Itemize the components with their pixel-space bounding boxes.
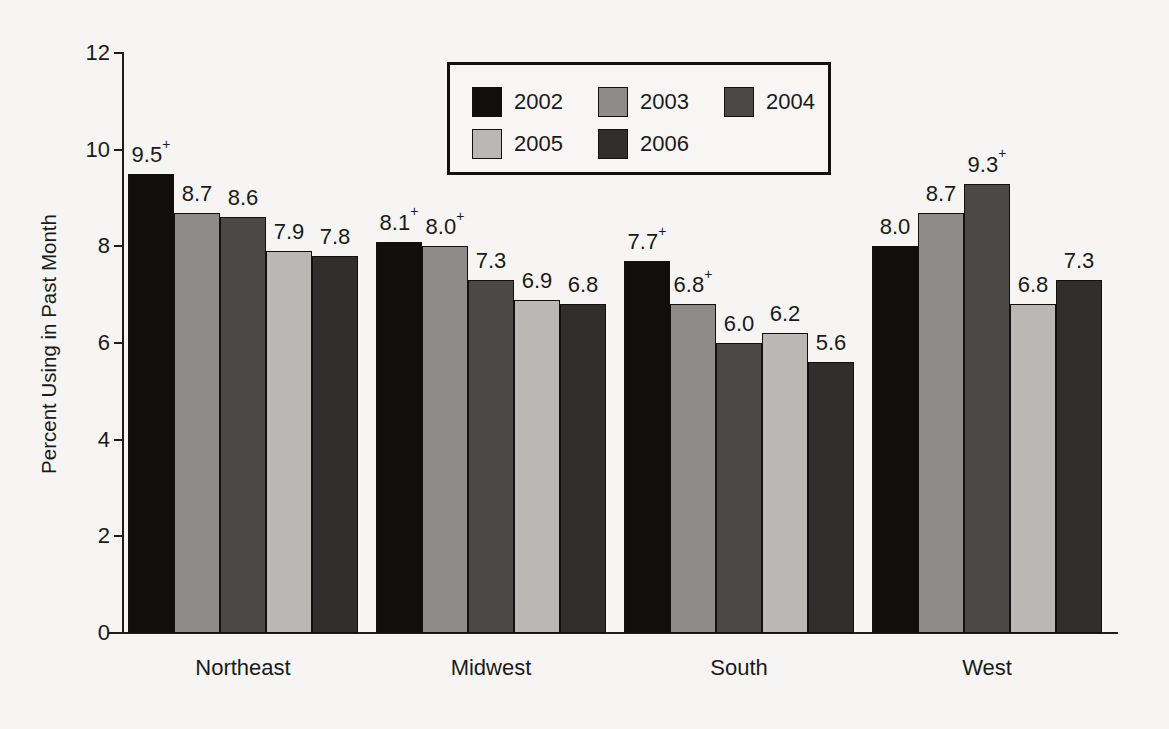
x-category-label-south: South	[624, 655, 854, 681]
bar	[872, 246, 918, 633]
bar	[1056, 280, 1102, 633]
legend-swatch-icon	[598, 129, 628, 159]
x-category-label-northeast: Northeast	[128, 655, 358, 681]
bar	[670, 304, 716, 633]
legend-item-2004: 2004	[724, 87, 815, 117]
legend-swatch-icon	[598, 87, 628, 117]
bar	[422, 246, 468, 633]
bar	[376, 242, 422, 634]
legend-swatch-icon	[472, 129, 502, 159]
legend-label: 2004	[766, 91, 815, 113]
legend-label: 2005	[514, 133, 563, 155]
bar-value-label: 9.5+	[116, 144, 186, 166]
bar	[964, 184, 1010, 634]
legend-label: 2006	[640, 133, 689, 155]
bar-value-label: 6.8	[548, 274, 618, 296]
bar-value-label: 7.7+	[612, 231, 682, 253]
legend: 20022003200420052006	[447, 62, 831, 175]
bar	[716, 343, 762, 633]
bar-value-label: 9.3+	[952, 154, 1022, 176]
bar-value-label: 5.6	[796, 332, 866, 354]
legend-swatch-icon	[724, 87, 754, 117]
bar-value-label: 7.3	[1044, 250, 1114, 272]
x-category-label-west: West	[872, 655, 1102, 681]
bar	[624, 261, 670, 633]
legend-label: 2002	[514, 91, 563, 113]
bar	[220, 217, 266, 633]
chart-page: Percent Using in Past Month 121086420 9.…	[0, 0, 1169, 729]
bar-value-label: 7.8	[300, 226, 370, 248]
bar	[468, 280, 514, 633]
bar	[312, 256, 358, 633]
bar	[128, 174, 174, 633]
legend-item-2005: 2005	[472, 129, 563, 159]
legend-label: 2003	[640, 91, 689, 113]
bar	[560, 304, 606, 633]
legend-swatch-icon	[472, 87, 502, 117]
bar-value-label: 6.2	[750, 303, 820, 325]
bar	[1010, 304, 1056, 633]
bar	[918, 213, 964, 634]
bar	[808, 362, 854, 633]
bar	[762, 333, 808, 633]
bar-value-label: 8.0+	[410, 216, 480, 238]
bar-value-label: 6.8+	[658, 274, 728, 296]
legend-item-2003: 2003	[598, 87, 689, 117]
bar	[514, 300, 560, 634]
legend-item-2006: 2006	[598, 129, 689, 159]
x-category-label-midwest: Midwest	[376, 655, 606, 681]
bar	[266, 251, 312, 633]
legend-item-2002: 2002	[472, 87, 563, 117]
bar	[174, 213, 220, 634]
bar-value-label: 8.6	[208, 187, 278, 209]
